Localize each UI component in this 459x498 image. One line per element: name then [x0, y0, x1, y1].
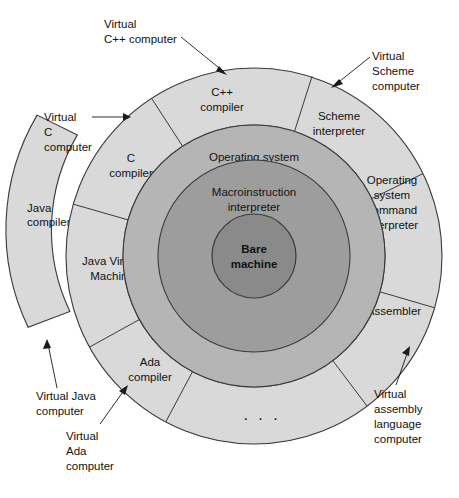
- leader-virtual-cpp: [181, 37, 224, 72]
- callout-virtual-assembly-line4: computer: [374, 433, 422, 445]
- callout-virtual-java-line2: computer: [36, 405, 84, 417]
- sector-ada-compiler-line1: Ada: [140, 356, 161, 368]
- callout-virtual-ada-line1: Virtual: [66, 430, 98, 442]
- callout-virtual-c-line1: Virtual: [44, 111, 76, 123]
- callout-virtual-c-line2: C: [44, 126, 52, 138]
- sector-c-compiler-line1: C: [127, 152, 135, 164]
- macroinstruction-interpreter-line1: Macroinstruction: [212, 186, 296, 198]
- bare-machine-label-line1: Bare: [241, 243, 267, 255]
- bare-machine-core-group: Bare machine: [212, 214, 296, 298]
- callout-virtual-scheme-line2: Scheme: [372, 65, 414, 77]
- callout-virtual-java-line1: Virtual Java: [36, 390, 96, 402]
- callout-virtual-cpp-line1: Virtual: [104, 18, 136, 30]
- diagram-canvas: Java compiler C++ compiler Sc: [0, 0, 459, 498]
- macroinstruction-interpreter-line2: interpreter: [228, 201, 281, 213]
- sector-os-command-interpreter-line1: Operating: [367, 174, 418, 186]
- java-compiler-label-line2: compiler: [27, 216, 71, 228]
- sector-more-ellipsis: . . .: [243, 406, 280, 423]
- callout-virtual-assembly-line2: assembly: [374, 403, 423, 415]
- callout-virtual-cpp-line2: C++ computer: [104, 33, 177, 45]
- virtual-machine-diagram: Java compiler C++ compiler Sc: [0, 0, 459, 498]
- callout-virtual-scheme-line1: Virtual: [372, 50, 404, 62]
- bare-machine-label-line2: machine: [231, 258, 278, 270]
- leader-virtual-ada: [100, 389, 125, 424]
- leader-virtual-java: [48, 344, 57, 388]
- arrowhead-virtual-java: [43, 339, 51, 349]
- sector-cpp-compiler-line1: C++: [211, 86, 233, 98]
- sector-cpp-compiler-line2: compiler: [200, 101, 244, 113]
- sector-os-command-interpreter-line2: system: [374, 189, 410, 201]
- callout-virtual-scheme-line3: computer: [372, 80, 420, 92]
- sector-c-compiler-line2: compiler: [109, 167, 153, 179]
- callout-virtual-assembly-line3: language: [374, 418, 421, 430]
- callout-virtual-ada-line3: computer: [66, 460, 114, 472]
- java-compiler-label-line1: Java: [27, 202, 52, 214]
- bare-machine-circle: [212, 214, 296, 298]
- callout-virtual-ada-line2: Ada: [66, 445, 87, 457]
- callout-virtual-c-line3: computer: [44, 141, 92, 153]
- sector-scheme-interpreter-line2: interpreter: [313, 125, 366, 137]
- callout-virtual-assembly-line1: Virtual: [374, 388, 406, 400]
- sector-ada-compiler-line2: compiler: [128, 371, 172, 383]
- sector-scheme-interpreter-line1: Scheme: [318, 110, 360, 122]
